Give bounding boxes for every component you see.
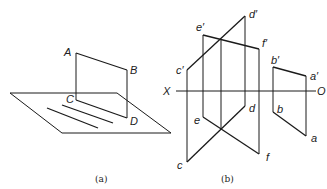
- label-C: C: [66, 93, 74, 105]
- caption-a: (a): [95, 174, 107, 184]
- edge-c-d: [76, 100, 127, 118]
- label-a-prime: a′: [310, 70, 319, 82]
- label-e-prime: e′: [196, 21, 205, 33]
- axis-label-x: X: [162, 85, 171, 97]
- label-D: D: [130, 115, 138, 127]
- label-f-prime: f′: [262, 37, 268, 49]
- line-e-f: [203, 117, 259, 154]
- label-b: b: [277, 103, 283, 115]
- line-b-a: [273, 112, 306, 136]
- plane-line-2: [62, 105, 113, 123]
- horizontal-plane: [10, 93, 171, 133]
- edge-a-b: [76, 53, 127, 70]
- label-f: f: [266, 151, 270, 163]
- label-B: B: [130, 64, 137, 76]
- figure-a: A B C D (a): [10, 46, 171, 184]
- label-c-prime: c′: [176, 64, 185, 76]
- caption-b: (b): [221, 174, 234, 184]
- figure-b: X O d′ e′ f′ c′ b′ a′ d e b c f a (b): [162, 8, 326, 184]
- axis-label-o: O: [317, 85, 326, 97]
- projection-diagram: A B C D (a) X O d′ e′ f′ c′ b′ a′ d e: [0, 0, 327, 189]
- label-b-prime: b′: [271, 54, 280, 66]
- label-d: d: [249, 102, 256, 114]
- label-A: A: [63, 46, 71, 58]
- label-d-prime: d′: [249, 8, 258, 20]
- label-c: c: [177, 159, 183, 171]
- line-b-prime-a-prime: [273, 67, 306, 76]
- label-a: a: [311, 132, 317, 144]
- label-e: e: [194, 114, 200, 126]
- plane-line-1: [47, 108, 98, 128]
